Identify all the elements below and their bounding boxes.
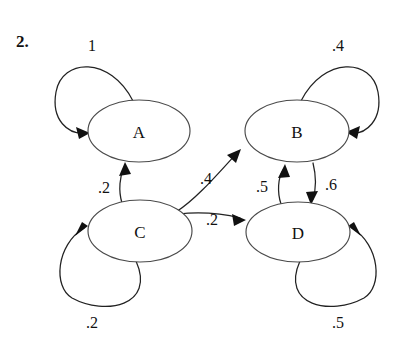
edge-weight-d-d: .5	[332, 314, 344, 331]
state-diagram-canvas: 2. 1 .4 .2 .5 .2	[0, 0, 395, 339]
edge-c-to-a-arrowhead	[119, 162, 131, 176]
edge-c-to-b: .4	[176, 149, 241, 212]
node-a[interactable]: A	[88, 100, 190, 162]
node-d-label: D	[292, 224, 304, 243]
edge-weight-a-a: 1	[88, 37, 96, 54]
edge-c-to-d-arrowhead	[232, 214, 246, 226]
edge-d-to-b: .5	[256, 164, 290, 204]
edge-weight-b-d: .6	[325, 176, 337, 193]
edge-c-to-a: .2	[98, 162, 131, 203]
edge-weight-d-b: .5	[256, 178, 268, 195]
node-a-label: A	[133, 123, 146, 142]
edge-weight-c-d: .2	[206, 211, 218, 228]
node-c-label: C	[134, 223, 145, 242]
node-d[interactable]: D	[246, 202, 350, 262]
markov-chain-diagram: 2. 1 .4 .2 .5 .2	[0, 0, 395, 339]
self-loop-c-arrowhead	[75, 222, 88, 236]
edge-d-to-b-arrowhead	[278, 164, 290, 178]
edge-b-to-d: .6	[306, 163, 337, 205]
node-c[interactable]: C	[88, 200, 192, 262]
node-b-label: B	[291, 123, 302, 142]
edge-weight-c-b: .4	[200, 170, 212, 187]
edge-weight-c-c: .2	[86, 314, 98, 331]
edge-weight-c-a: .2	[98, 179, 110, 196]
problem-number: 2.	[16, 32, 29, 51]
edge-weight-b-b: .4	[332, 37, 344, 54]
node-b[interactable]: B	[245, 100, 349, 162]
